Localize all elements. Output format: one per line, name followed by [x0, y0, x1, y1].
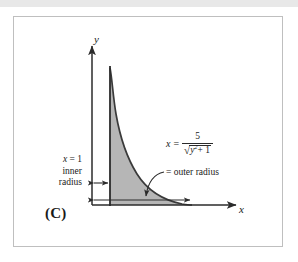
- curve-equation-lhs: x: [166, 138, 170, 149]
- figure-graphic: [0, 0, 298, 262]
- inner-radius-annotation: x = 1 inner radius: [24, 154, 82, 189]
- radicand: y2+ 1: [189, 145, 211, 156]
- x-axis-label: x: [239, 203, 244, 215]
- sqrt-group: √ y2+ 1: [184, 145, 211, 156]
- radicand-rest: + 1: [198, 145, 210, 155]
- inner-radius-operator: =: [70, 154, 75, 164]
- inner-radius-line3: radius: [24, 177, 82, 189]
- inner-radius-line2: inner: [24, 166, 82, 178]
- curve-equation-equals: =: [173, 138, 179, 149]
- curve-equation-denominator: √ y2+ 1: [182, 144, 213, 156]
- curve-equation-fraction: 5 √ y2+ 1: [182, 132, 213, 155]
- panel-letter: (C): [45, 205, 66, 222]
- curve-equation-annotation: x = 5 √ y2+ 1: [166, 132, 213, 155]
- y-axis-label: y: [94, 33, 99, 45]
- inner-radius-value: 1: [77, 154, 82, 164]
- curve-equation-numerator: 5: [190, 132, 205, 143]
- figure-root: y x (C) x = 1 inner radius = outer radiu…: [0, 0, 298, 262]
- outer-radius-annotation: = outer radius: [166, 167, 219, 178]
- inner-radius-equation: x = 1: [24, 154, 82, 166]
- inner-radius-var: x: [63, 154, 67, 164]
